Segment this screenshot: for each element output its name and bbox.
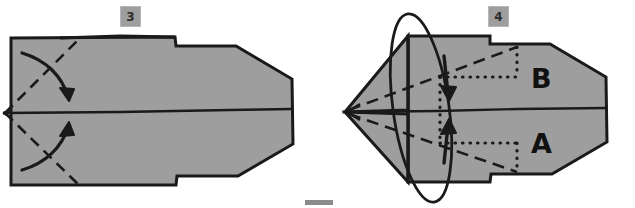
step-3-illustration <box>0 0 317 208</box>
panel-step-4: 4 <box>318 0 635 208</box>
label-b: B <box>531 63 552 94</box>
label-a: A <box>531 128 552 159</box>
step-4-illustration: B A <box>318 0 635 208</box>
footer-divider-bar <box>305 200 333 205</box>
folding-diagram: 3 4 <box>0 0 635 208</box>
panel-step-3: 3 <box>0 0 317 208</box>
